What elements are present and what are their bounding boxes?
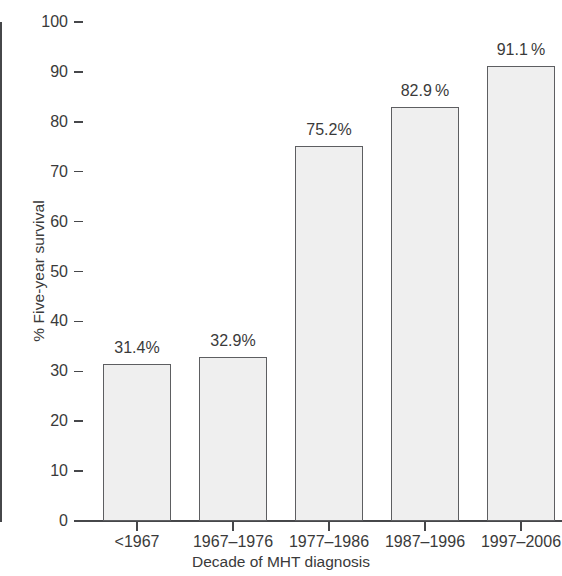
y-axis-tick xyxy=(74,21,83,23)
x-axis-tick xyxy=(424,522,426,531)
y-axis-tick xyxy=(74,470,83,472)
y-axis-tick xyxy=(74,121,83,123)
bar-value-label: 32.9% xyxy=(210,333,255,349)
bar xyxy=(295,146,363,521)
bar xyxy=(391,107,459,521)
y-axis-tick-label: 60 xyxy=(0,214,68,230)
y-axis-tick xyxy=(74,321,83,323)
y-axis-tick-label: 0 xyxy=(0,513,68,529)
bar-value-label: 91.1 % xyxy=(497,42,546,58)
y-axis-tick xyxy=(74,171,83,173)
x-axis-tick-label: 1987–1996 xyxy=(385,534,465,550)
y-axis-tick-label: 10 xyxy=(0,463,68,479)
bar xyxy=(103,364,171,521)
y-axis-tick xyxy=(74,520,83,522)
y-axis-tick-label: 80 xyxy=(0,114,68,130)
y-axis-tick xyxy=(74,71,83,73)
y-axis-tick-label: 20 xyxy=(0,413,68,429)
y-axis-tick xyxy=(74,420,83,422)
y-axis-tick xyxy=(74,221,83,223)
bar xyxy=(199,357,267,521)
y-axis-tick xyxy=(74,271,83,273)
bar xyxy=(487,66,555,521)
x-axis-tick-label: 1967–1976 xyxy=(193,534,273,550)
y-axis-tick-label: 90 xyxy=(0,64,68,80)
bar-value-label: 75.2% xyxy=(306,122,351,138)
x-axis-tick-label: <1967 xyxy=(115,534,160,550)
y-axis-tick-label: 100 xyxy=(0,14,68,30)
x-axis-tick xyxy=(136,522,138,531)
x-axis-tick xyxy=(232,522,234,531)
x-axis-tick xyxy=(520,522,522,531)
x-axis-title: Decade of MHT diagnosis xyxy=(0,553,562,571)
x-axis-tick xyxy=(328,522,330,531)
y-axis-tick-label: 40 xyxy=(0,313,68,329)
x-axis-tick-label: 1977–1986 xyxy=(289,534,369,550)
bar-value-label: 82.9 % xyxy=(401,83,450,99)
bar-value-label: 31.4% xyxy=(114,340,159,356)
y-axis-tick-label: 30 xyxy=(0,363,68,379)
x-axis-tick-label: 1997–2006 xyxy=(481,534,561,550)
y-axis-tick xyxy=(74,371,83,373)
y-axis-tick-label: 70 xyxy=(0,164,68,180)
y-axis-tick-label: 50 xyxy=(0,264,68,280)
bar-chart-figure: % Five-year survival 0102030405060708090… xyxy=(0,0,562,576)
